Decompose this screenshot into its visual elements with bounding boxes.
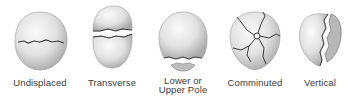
fracture-vertical: Vertical — [284, 0, 356, 101]
undisplaced-patella-illustration — [4, 0, 76, 75]
fracture-lower-upper-pole: Lower or Upper Pole — [147, 0, 219, 101]
pole-patella-illustration — [147, 0, 219, 75]
label-comminuted: Comminuted — [219, 78, 291, 88]
transverse-patella-illustration — [76, 0, 148, 75]
label-undisplaced: Undisplaced — [4, 78, 76, 88]
patella-fracture-figure: Undisplaced Transverse Lower or Upper Po… — [0, 0, 356, 101]
fracture-comminuted: Comminuted — [219, 0, 291, 101]
fracture-transverse: Transverse — [76, 0, 148, 101]
label-vertical: Vertical — [284, 78, 356, 88]
fracture-undisplaced: Undisplaced — [4, 0, 76, 101]
comminuted-patella-illustration — [219, 0, 291, 75]
vertical-patella-illustration — [284, 0, 356, 75]
label-pole-line2: Upper Pole — [147, 85, 219, 95]
label-transverse: Transverse — [76, 78, 148, 88]
